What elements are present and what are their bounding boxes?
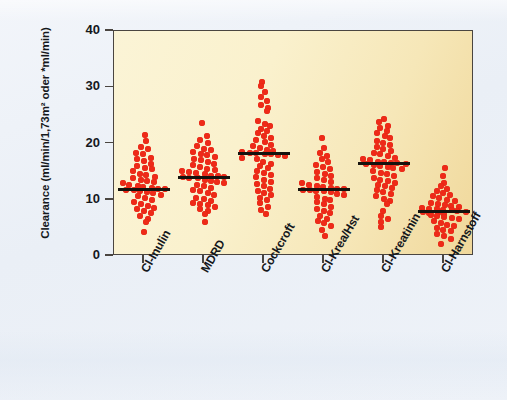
mean-line-cl-krea-hst	[298, 188, 350, 191]
y-tick-label: 30	[66, 78, 100, 93]
data-point	[255, 188, 261, 194]
data-point	[138, 177, 144, 183]
data-point	[221, 180, 227, 186]
data-point	[441, 233, 447, 239]
data-point	[190, 200, 196, 206]
data-point	[141, 229, 147, 235]
data-point	[430, 193, 436, 199]
data-point	[264, 197, 270, 203]
data-point	[198, 157, 204, 163]
data-point	[380, 189, 386, 195]
data-point	[384, 171, 390, 177]
data-point	[143, 172, 149, 178]
data-point	[444, 222, 450, 228]
y-tick-mark	[105, 254, 113, 256]
data-point	[328, 223, 334, 229]
data-point	[377, 151, 383, 157]
data-point	[179, 168, 185, 174]
data-point	[385, 216, 391, 222]
data-point	[380, 140, 386, 146]
data-point	[149, 197, 155, 203]
data-point	[440, 227, 446, 233]
data-point	[149, 166, 155, 172]
data-point	[130, 168, 136, 174]
data-point	[158, 192, 164, 198]
data-point	[148, 155, 154, 161]
data-point	[258, 102, 264, 108]
data-point	[390, 165, 396, 171]
data-point	[438, 241, 444, 247]
data-point	[315, 218, 321, 224]
data-point	[448, 228, 454, 234]
data-point	[299, 180, 305, 186]
data-point	[373, 193, 379, 199]
data-point	[205, 140, 211, 146]
data-point	[324, 153, 330, 159]
data-point	[202, 211, 208, 217]
data-point	[314, 175, 320, 181]
data-point	[197, 137, 203, 143]
data-point	[211, 161, 217, 167]
data-point	[137, 171, 143, 177]
data-point	[313, 162, 319, 168]
y-tick-label: 10	[66, 191, 100, 206]
data-point	[253, 137, 259, 143]
data-point	[319, 135, 325, 141]
y-tick-mark	[105, 86, 113, 88]
data-point	[190, 162, 196, 168]
data-point	[190, 187, 196, 193]
data-point	[141, 158, 147, 164]
data-point	[388, 191, 394, 197]
data-point	[399, 166, 405, 172]
data-point	[239, 155, 245, 161]
data-point	[204, 133, 210, 139]
y-tick-label: 20	[66, 135, 100, 150]
data-point	[389, 185, 395, 191]
data-point	[327, 197, 333, 203]
data-point	[135, 193, 141, 199]
data-point	[449, 215, 455, 221]
data-point	[194, 143, 200, 149]
data-point	[262, 139, 268, 145]
data-point	[212, 154, 218, 160]
data-point	[137, 213, 143, 219]
data-point	[134, 206, 140, 212]
data-point	[261, 177, 267, 183]
data-point	[143, 219, 149, 225]
data-point	[120, 180, 126, 186]
data-point	[254, 181, 260, 187]
data-point	[328, 179, 334, 185]
data-point	[199, 120, 205, 126]
data-point	[442, 165, 448, 171]
data-point	[258, 94, 264, 100]
data-point	[197, 164, 203, 170]
data-point	[319, 156, 325, 162]
data-point	[258, 83, 264, 89]
y-tick-mark	[105, 198, 113, 200]
data-point	[440, 173, 446, 179]
data-point	[212, 167, 218, 173]
data-point	[263, 211, 269, 217]
mean-line-cockcroft	[238, 152, 290, 155]
data-point	[261, 170, 267, 176]
data-point	[190, 149, 196, 155]
data-point	[384, 201, 390, 207]
data-point	[322, 171, 328, 177]
data-point	[253, 174, 259, 180]
data-point	[456, 216, 462, 222]
data-point	[434, 231, 440, 237]
mean-line-cl-inulin	[118, 188, 170, 191]
data-point	[378, 213, 384, 219]
data-point	[376, 119, 382, 125]
data-point	[205, 190, 211, 196]
y-tick-label: 0	[66, 247, 100, 262]
data-point	[144, 178, 150, 184]
data-point	[320, 164, 326, 170]
data-point	[371, 150, 377, 156]
data-point	[428, 200, 434, 206]
y-tick-mark	[105, 142, 113, 144]
data-point	[391, 173, 397, 179]
data-point	[334, 191, 340, 197]
data-point	[202, 219, 208, 225]
data-point	[431, 218, 437, 224]
